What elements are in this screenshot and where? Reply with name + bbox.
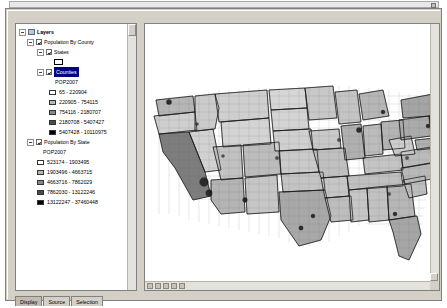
legend-item-county-1[interactable]: 220905 - 754115 (16, 97, 127, 107)
layer-checkbox-states[interactable] (46, 49, 52, 55)
tree-item-layers-root[interactable]: Layers (16, 27, 127, 37)
map-document-window: Layers Population By County Stat (5, 8, 442, 301)
table-of-contents-scroll-area: Layers Population By County Stat (16, 24, 127, 290)
legend-item-state-1[interactable]: 1903496 - 4663715 (16, 167, 127, 177)
map-tool-5-icon[interactable] (179, 283, 185, 289)
layers-root-label: Layers (37, 27, 54, 37)
window-inner-frame: Layers Population By County Stat (7, 10, 440, 299)
layer-tree: Layers Population By County Stat (16, 24, 127, 207)
legend-label-county-0: 65 - 220904 (59, 87, 87, 97)
symbol-row-states[interactable] (16, 57, 127, 67)
legend-item-state-4[interactable]: 13122247 - 37460448 (16, 197, 127, 207)
legend-swatch-icon (37, 190, 44, 195)
map-vertical-scrollbar[interactable] (430, 24, 439, 281)
expander-icon[interactable] (27, 139, 34, 146)
map-view-frame (144, 23, 440, 291)
tree-item-states[interactable]: States (16, 47, 127, 57)
layer-checkbox-population-by-state[interactable] (36, 139, 42, 145)
legend-item-state-0[interactable]: 523174 - 1903495 (16, 157, 127, 167)
tree-item-population-by-county[interactable]: Population By County (16, 37, 127, 47)
expander-icon[interactable] (27, 39, 34, 46)
map-tool-2-icon[interactable] (155, 283, 161, 289)
expander-icon[interactable] (37, 49, 44, 56)
tab-selection[interactable]: Selection (71, 296, 103, 306)
hollow-rectangle-symbol-icon (54, 59, 63, 65)
field-row-counties: POP2007 (16, 77, 127, 87)
map-tool-3-icon[interactable] (163, 283, 169, 289)
tab-display[interactable]: Display (15, 296, 42, 306)
legend-swatch-icon (49, 110, 56, 115)
legend-label-county-2: 754116 - 2180707 (59, 107, 101, 117)
scroll-down-button[interactable] (430, 273, 438, 281)
legend-label-state-4: 13122247 - 37460448 (47, 197, 98, 207)
map-horizontal-scrollbar[interactable] (145, 281, 430, 290)
legend-label-state-1: 1903496 - 4663715 (47, 167, 92, 177)
toc-tabs: Display Source Selection (15, 294, 104, 306)
map-tool-1-icon[interactable] (147, 283, 153, 289)
legend-label-county-4: 5407428 - 10110975 (59, 127, 107, 137)
legend-item-county-0[interactable]: 65 - 220904 (16, 87, 127, 97)
legend-label-county-3: 2180708 - 5407427 (59, 117, 104, 127)
map-tool-strip (147, 281, 185, 290)
tab-source[interactable]: Source (43, 296, 70, 306)
expander-icon[interactable] (37, 69, 44, 76)
legend-swatch-icon (49, 130, 56, 135)
layer-checkbox-counties[interactable] (46, 69, 52, 75)
legend-item-county-4[interactable]: 5407428 - 10110975 (16, 127, 127, 137)
map-tool-4-icon[interactable] (171, 283, 177, 289)
table-of-contents-panel: Layers Population By County Stat (15, 23, 137, 291)
layer-label-states: States (54, 47, 69, 57)
legend-swatch-icon (37, 170, 44, 175)
layer-label-population-by-state: Population By State (44, 137, 90, 147)
us-choropleth-map (145, 24, 430, 281)
layer-checkbox-population-by-county[interactable] (36, 39, 42, 45)
application-window: Layers Population By County Stat (0, 0, 447, 308)
field-row-state: POP2007 (16, 147, 127, 157)
tree-item-population-by-state[interactable]: Population By State (16, 137, 127, 147)
scrollbar-corner (430, 281, 439, 290)
legend-item-county-3[interactable]: 2180708 - 5407427 (16, 117, 127, 127)
legend-swatch-icon (37, 180, 44, 185)
expander-icon[interactable] (19, 29, 26, 36)
table-of-contents-scrollbar[interactable] (127, 24, 136, 290)
legend-label-state-3: 7862030 - 13122246 (47, 187, 95, 197)
legend-item-state-2[interactable]: 4663716 - 7862029 (16, 177, 127, 187)
legend-label-state-0: 523174 - 1903495 (47, 157, 89, 167)
field-label-counties: POP2007 (55, 77, 78, 87)
legend-swatch-icon (49, 120, 56, 125)
legend-swatch-icon (37, 200, 44, 205)
legend-swatch-icon (49, 100, 56, 105)
legend-item-county-2[interactable]: 754116 - 2180707 (16, 107, 127, 117)
tree-item-counties[interactable]: Counties (16, 67, 127, 77)
legend-label-state-2: 4663716 - 7862029 (47, 177, 92, 187)
layer-label-counties: Counties (54, 67, 79, 77)
layer-label-population-by-county: Population By County (44, 37, 94, 47)
legend-swatch-icon (49, 90, 56, 95)
field-label-state: POP2007 (43, 147, 66, 157)
map-canvas[interactable] (145, 24, 430, 281)
layers-icon (28, 29, 35, 35)
legend-label-county-1: 220905 - 754115 (59, 97, 98, 107)
legend-swatch-icon (37, 160, 44, 165)
toolbar-strip (9, 1, 439, 8)
scrollbar-thumb[interactable] (128, 24, 136, 36)
legend-item-state-3[interactable]: 7862030 - 13122246 (16, 187, 127, 197)
